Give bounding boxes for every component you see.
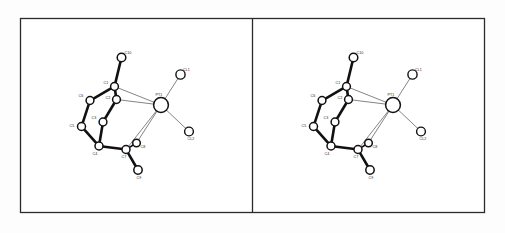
atom-c2: [345, 96, 353, 104]
atom-c5: [78, 123, 86, 131]
stereo-pair-figure: PT1CL1CL2C1C2C3C4C5C6C7C8C9C10PT1CL1CL2C…: [0, 0, 505, 233]
molecular-structure-svg: PT1CL1CL2C1C2C3C4C5C6C7C8C9C10PT1CL1CL2C…: [0, 0, 505, 233]
atom-label-pt1: PT1: [388, 93, 395, 97]
atom-label-c10: C10: [357, 51, 364, 55]
atom-label-c8: C8: [373, 145, 378, 149]
atom-label-c4: C4: [325, 152, 330, 156]
atom-c3: [331, 118, 339, 126]
atom-label-c4: C4: [93, 152, 98, 156]
atom-c8: [365, 139, 373, 147]
atom-cl2: [185, 127, 194, 136]
atom-c1: [343, 83, 351, 91]
atom-label-c10: C10: [125, 51, 132, 55]
atom-c5: [310, 123, 318, 131]
atom-c8: [133, 139, 141, 147]
atom-c6: [86, 97, 94, 105]
atom-c3: [99, 118, 107, 126]
atom-label-cl1: CL1: [183, 68, 190, 72]
atom-pt1: [154, 98, 169, 113]
atom-c2: [113, 96, 121, 104]
atom-label-c3: C3: [324, 116, 329, 120]
atom-label-c2: C2: [338, 96, 343, 100]
atom-c7: [122, 146, 130, 154]
atom-cl2: [417, 127, 426, 136]
atom-label-c6: C6: [311, 94, 316, 98]
atom-label-c1: C1: [104, 81, 109, 85]
atom-label-pt1: PT1: [156, 93, 163, 97]
atom-c4: [95, 142, 103, 150]
atom-label-c5: C5: [70, 124, 75, 128]
atom-label-c9: C9: [369, 176, 374, 180]
atom-label-c3: C3: [92, 116, 97, 120]
atom-c9: [366, 166, 374, 174]
atom-label-cl2: CL2: [420, 137, 427, 141]
atom-c9: [134, 166, 142, 174]
atom-label-c9: C9: [137, 176, 142, 180]
atom-label-cl2: CL2: [188, 137, 195, 141]
atom-c6: [318, 97, 326, 105]
atom-label-c5: C5: [302, 124, 307, 128]
atom-label-c7: C7: [122, 155, 127, 159]
atom-c7: [354, 146, 362, 154]
atom-label-c1: C1: [336, 81, 341, 85]
atom-label-c2: C2: [106, 96, 111, 100]
atom-label-c8: C8: [141, 145, 146, 149]
atom-label-c6: C6: [79, 94, 84, 98]
atom-c1: [111, 83, 119, 91]
atom-label-c7: C7: [354, 155, 359, 159]
atom-pt1: [386, 98, 401, 113]
atom-label-cl1: CL1: [415, 68, 422, 72]
atom-c4: [327, 142, 335, 150]
